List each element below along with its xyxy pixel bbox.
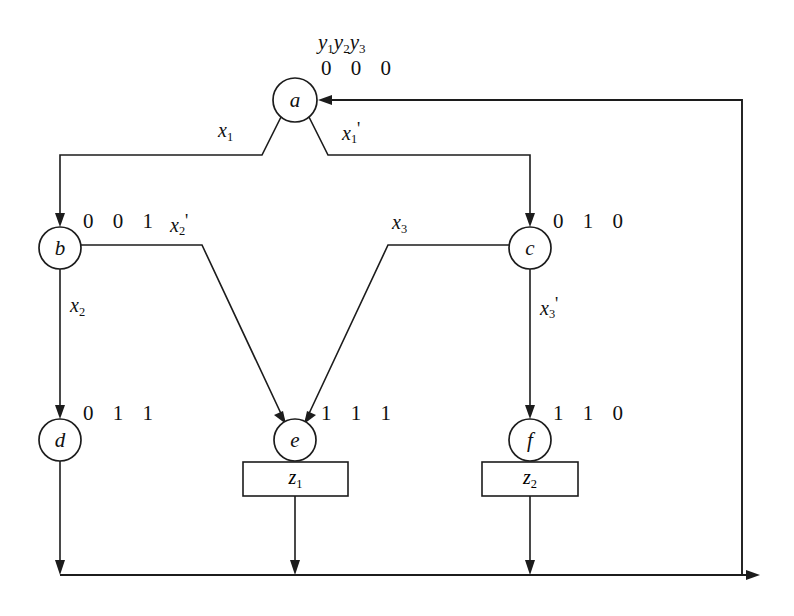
state-diagram-canvas: y1y2y3 0 0 0 0 0 1 0 1 0 0 1 1 1 1 1 1 1…	[0, 0, 794, 616]
state-code-b: 0 0 1	[83, 211, 160, 232]
state-label-c: c	[520, 238, 540, 259]
state-var-y3: y3	[350, 30, 366, 54]
edge-label-x2-prime: x2'	[170, 212, 188, 238]
edge-label-x1-prime: x1'	[342, 120, 360, 146]
edge-e-to-bus	[290, 496, 300, 575]
bottom-feedback-bus	[60, 570, 760, 580]
edge-b-to-d	[55, 269, 65, 419]
edge-d-to-bus	[55, 461, 65, 575]
edge-f-to-bus	[525, 496, 535, 575]
state-code-f: 1 1 0	[553, 403, 630, 424]
edge-label-x1: x1	[218, 120, 233, 143]
state-var-y2: y2	[334, 30, 350, 54]
state-code-c: 0 1 0	[553, 211, 630, 232]
output-label-z1: z1	[243, 466, 348, 492]
output-label-wrap-z2: z2	[482, 462, 578, 496]
edge-label-x3-prime: x3'	[540, 295, 558, 321]
state-variable-header: y1y2y3	[318, 32, 366, 55]
state-label-f: f	[520, 430, 540, 451]
edge-c-to-e	[304, 245, 509, 424]
edge-c-to-f	[525, 269, 535, 419]
state-var-y1: y1	[318, 30, 334, 54]
state-label-a: a	[285, 90, 305, 111]
output-label-wrap-z1: z1	[243, 462, 348, 496]
state-label-d: d	[50, 430, 70, 451]
state-label-e: e	[285, 430, 305, 451]
state-label-b: b	[50, 238, 70, 259]
edge-label-x3: x3	[392, 212, 407, 235]
state-code-d: 0 1 1	[83, 403, 160, 424]
state-code-a: 0 0 0	[321, 58, 398, 79]
edge-b-to-e	[81, 245, 286, 424]
state-code-e: 1 1 1	[321, 403, 398, 424]
state-diagram-graphics	[0, 0, 794, 616]
edge-label-x2: x2	[70, 295, 85, 318]
output-label-z2: z2	[482, 466, 578, 492]
